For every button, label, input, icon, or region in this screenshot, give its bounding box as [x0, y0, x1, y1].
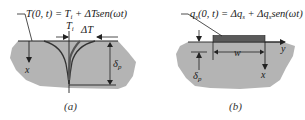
w-label: w: [234, 47, 241, 58]
ti-label: Ti: [66, 20, 74, 33]
equation-a: T(0, t) = Ti + ΔTsen(ωt): [26, 8, 128, 21]
x-label-a: x: [24, 64, 30, 75]
x-label-b: x: [260, 69, 266, 80]
panel-a: T(0, t) = Ti + ΔTsen(ωt) Ti ΔT x δp (a): [10, 8, 136, 113]
delta-t-label: ΔT: [80, 24, 94, 35]
panel-b: qs(0, t) = Δqs + Δqssen(ωt) w y x δp (b): [176, 8, 303, 113]
caption-b: (b): [229, 100, 242, 113]
caption-a: (a): [64, 100, 77, 113]
heater-strip: [213, 36, 265, 43]
y-label: y: [280, 43, 286, 54]
diagram-canvas: T(0, t) = Ti + ΔTsen(ωt) Ti ΔT x δp (a) …: [0, 0, 305, 120]
equation-b: qs(0, t) = Δqs + Δqssen(ωt): [190, 8, 303, 21]
